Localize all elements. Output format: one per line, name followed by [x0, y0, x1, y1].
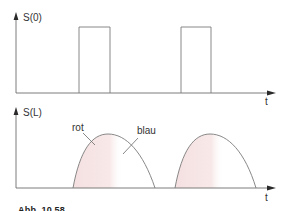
bump-2-fill	[175, 134, 256, 188]
y-label-top: S(0)	[23, 12, 42, 23]
x-label-bottom: t	[265, 192, 268, 203]
figure-caption: Abb. 10.58	[18, 205, 65, 211]
label-rot: rot	[72, 122, 84, 133]
pulse-dispersion-diagram: S(0) t S(L) t rot blau	[0, 0, 285, 211]
bump-1-fill	[73, 134, 155, 188]
pulse-2	[181, 27, 211, 93]
y-label-bottom: S(L)	[23, 107, 42, 118]
y-arrow-top-icon	[14, 12, 19, 20]
top-panel: S(0) t	[14, 12, 276, 107]
bottom-panel: S(L) t rot blau	[14, 107, 276, 203]
label-blau: blau	[137, 125, 156, 136]
x-arrow-top-icon	[267, 91, 276, 96]
y-arrow-bottom-icon	[14, 107, 19, 115]
pulse-1	[79, 27, 110, 93]
x-label-top: t	[265, 96, 268, 107]
leader-rot	[83, 133, 95, 145]
x-arrow-bottom-icon	[267, 186, 276, 191]
